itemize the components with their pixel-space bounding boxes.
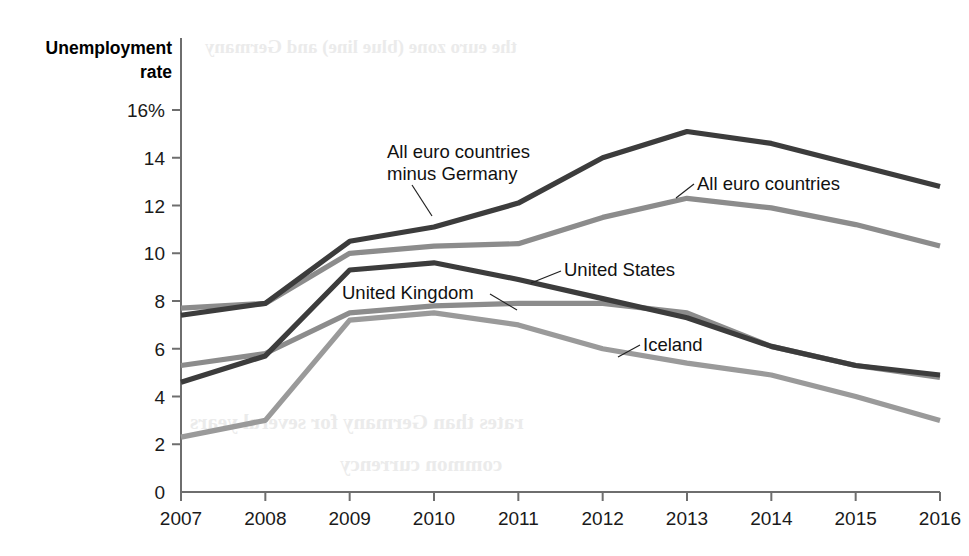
ann-euro-minus-germany-label: All euro countries — [387, 141, 530, 162]
x-tick-label: 2015 — [835, 508, 877, 529]
x-tick-label: 2010 — [413, 508, 455, 529]
ann-iceland-label: Iceland — [643, 334, 703, 355]
x-tick-label: 2007 — [160, 508, 202, 529]
y-tick-label: 2 — [154, 434, 165, 455]
y-tick-label: 4 — [154, 387, 165, 408]
x-tick-group: 2007200820092010201120122013201420152016 — [160, 492, 961, 529]
y-tick-label: 8 — [154, 291, 165, 312]
ann-all-euro-leader-line — [676, 184, 694, 198]
x-tick-label: 2016 — [919, 508, 961, 529]
y-tick-label: 6 — [154, 339, 165, 360]
series-line-united-kingdom — [181, 303, 940, 377]
x-tick-label: 2008 — [244, 508, 286, 529]
ann-united-kingdom-label: United Kingdom — [342, 282, 474, 303]
series-line-iceland — [181, 313, 940, 437]
ann-all-euro-label: All euro countries — [697, 173, 840, 194]
chart-plot-area: 0246810121416% 2007200820092010201120122… — [0, 0, 969, 556]
y-tick-label: 12 — [144, 196, 165, 217]
y-tick-label: 14 — [144, 148, 166, 169]
x-tick-label: 2014 — [750, 508, 793, 529]
y-axis-title-line1: Unemployment — [46, 38, 173, 58]
x-tick-label: 2009 — [329, 508, 371, 529]
ann-euro-minus-germany-label: minus Germany — [387, 163, 518, 184]
y-axis-title-line2: rate — [140, 62, 172, 82]
ann-euro-minus-germany-leader-line — [412, 185, 432, 216]
y-tick-label: 16% — [127, 100, 165, 121]
x-tick-label: 2013 — [666, 508, 708, 529]
y-tick-label: 10 — [144, 243, 165, 264]
ann-united-states-leader-line — [531, 271, 561, 283]
y-tick-group: 0246810121416% — [127, 100, 181, 503]
x-tick-label: 2012 — [582, 508, 624, 529]
x-tick-label: 2011 — [498, 508, 539, 529]
unemployment-rate-line-chart: the euro zone (blue line) and Germanyrat… — [0, 0, 969, 556]
axes-group — [181, 38, 940, 492]
ann-united-states-label: United States — [564, 259, 675, 280]
y-tick-label: 0 — [154, 482, 165, 503]
